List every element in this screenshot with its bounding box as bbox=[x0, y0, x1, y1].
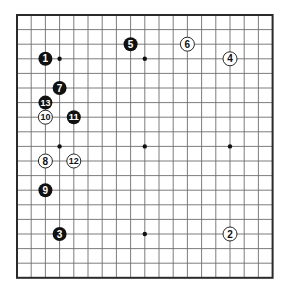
stone-white-2: 2 bbox=[223, 227, 237, 241]
stones: 12345678910111213 bbox=[38, 37, 237, 241]
stone-white-6: 6 bbox=[180, 37, 194, 51]
go-board: 12345678910111213 bbox=[0, 0, 295, 295]
stone-black-5: 5 bbox=[124, 37, 138, 51]
stone-black-7: 7 bbox=[53, 81, 67, 95]
stone-white-12: 12 bbox=[67, 154, 81, 168]
stone-white-4: 4 bbox=[223, 52, 237, 66]
stone-black-1: 1 bbox=[38, 52, 52, 66]
move-number: 3 bbox=[57, 229, 63, 240]
star-point bbox=[143, 232, 147, 236]
move-number: 5 bbox=[128, 39, 134, 50]
move-number: 2 bbox=[227, 229, 233, 240]
move-number: 12 bbox=[69, 156, 79, 166]
move-number: 10 bbox=[40, 112, 50, 122]
move-number: 13 bbox=[40, 98, 50, 108]
stone-black-11: 11 bbox=[67, 110, 81, 124]
star-point bbox=[57, 144, 61, 148]
star-point bbox=[143, 57, 147, 61]
move-number: 6 bbox=[185, 39, 191, 50]
move-number: 7 bbox=[57, 83, 63, 94]
star-point bbox=[57, 57, 61, 61]
move-number: 9 bbox=[43, 185, 49, 196]
stone-black-3: 3 bbox=[53, 227, 67, 241]
stone-white-10: 10 bbox=[38, 110, 52, 124]
star-point bbox=[143, 144, 147, 148]
stone-black-13: 13 bbox=[38, 96, 52, 110]
star-point bbox=[228, 144, 232, 148]
move-number: 4 bbox=[227, 53, 233, 64]
stone-black-9: 9 bbox=[38, 183, 52, 197]
move-number: 1 bbox=[43, 53, 49, 64]
stone-white-8: 8 bbox=[38, 154, 52, 168]
move-number: 11 bbox=[69, 112, 79, 122]
move-number: 8 bbox=[43, 156, 49, 167]
